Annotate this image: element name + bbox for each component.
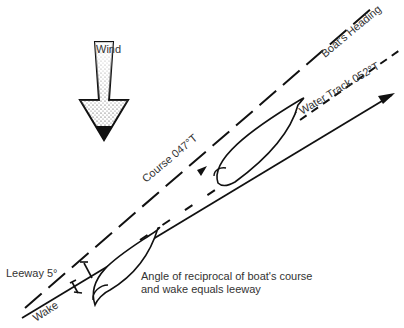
leeway-diagram: Wind Course 047°T Boat's Heading Water T… (0, 0, 404, 328)
wake-label: Wake (31, 299, 61, 324)
boat-icon-2 (214, 98, 304, 185)
course-label: Course 047°T (140, 131, 200, 184)
leeway-label: Leeway 5° (6, 267, 58, 279)
note-line-2: and wake equals leeway (141, 283, 261, 295)
note-line-1: Angle of reciprocal of boat's course (141, 270, 312, 282)
wind-arrow-icon (80, 42, 128, 140)
wind-label: Wind (96, 43, 121, 55)
boats-heading-label: Boat's Heading (319, 3, 384, 60)
